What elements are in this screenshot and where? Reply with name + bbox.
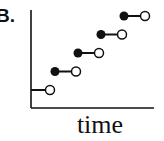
closed-endpoint-marker: [120, 12, 129, 21]
open-endpoint-marker: [95, 49, 104, 58]
open-endpoint-marker: [46, 86, 55, 95]
open-endpoint-marker: [72, 67, 81, 76]
open-endpoint-marker: [118, 30, 127, 39]
closed-endpoint-marker: [51, 67, 60, 76]
closed-endpoint-marker: [74, 49, 83, 58]
closed-endpoint-marker: [97, 30, 106, 39]
open-endpoint-marker: [141, 12, 150, 21]
x-axis-label: time: [60, 111, 140, 139]
step-segments: [31, 12, 150, 95]
